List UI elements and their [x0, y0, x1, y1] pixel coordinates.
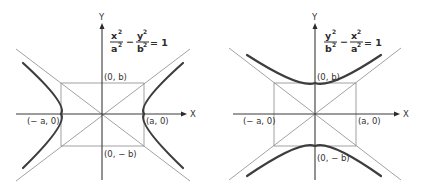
y-axis-label: Y	[98, 12, 105, 22]
svg-text:= 1: = 1	[150, 37, 168, 48]
svg-text:2: 2	[332, 28, 336, 35]
hyperbola-lower-branch	[247, 145, 381, 176]
y-axis-arrow-icon	[100, 23, 105, 29]
x-axis-label: X	[190, 109, 196, 119]
svg-text:x: x	[111, 30, 117, 41]
svg-text:2: 2	[118, 41, 122, 48]
x-axis-label: X	[403, 109, 409, 119]
x-axis-arrow-icon	[394, 112, 400, 117]
y-axis-label: Y	[311, 12, 318, 22]
y-axis-arrow-icon	[313, 23, 318, 29]
equation: x 2 a 2 − y 2 b 2 = 1	[110, 28, 168, 54]
figure-horizontal-hyperbola: X Y (0, b) (0, − b) (− a, 0) (a, 0) x 2 …	[16, 12, 196, 181]
svg-text:2: 2	[332, 41, 336, 48]
equation: y 2 b 2 − x 2 a 2 = 1	[324, 28, 382, 54]
point-label-bottom: (0, − b)	[317, 153, 350, 163]
svg-text:a: a	[111, 43, 117, 54]
svg-text:= 1: = 1	[364, 37, 382, 48]
svg-text:2: 2	[357, 41, 361, 48]
svg-text:2: 2	[143, 41, 147, 48]
point-label-left: (− a, 0)	[27, 116, 59, 126]
svg-text:y: y	[325, 30, 332, 41]
point-label-right: (a, 0)	[358, 116, 381, 126]
point-label-left: (− a, 0)	[243, 116, 275, 126]
svg-text:−: −	[340, 36, 348, 47]
hyperbola-diagrams: X Y (0, b) (0, − b) (− a, 0) (a, 0) x 2 …	[0, 0, 426, 192]
svg-text:2: 2	[143, 28, 147, 35]
point-label-bottom: (0, − b)	[104, 149, 137, 159]
svg-text:−: −	[126, 36, 134, 47]
point-label-right: (a, 0)	[146, 116, 169, 126]
point-label-top: (0, b)	[317, 72, 340, 82]
svg-text:b: b	[325, 43, 332, 54]
figure-vertical-hyperbola: X Y (0, b) (0, − b) (− a, 0) (a, 0) y 2 …	[229, 12, 409, 180]
x-axis-arrow-icon	[181, 112, 187, 117]
hyperbola-upper-branch	[247, 55, 381, 84]
svg-text:2: 2	[357, 28, 361, 35]
svg-text:2: 2	[118, 28, 122, 35]
point-label-top: (0, b)	[104, 72, 127, 82]
